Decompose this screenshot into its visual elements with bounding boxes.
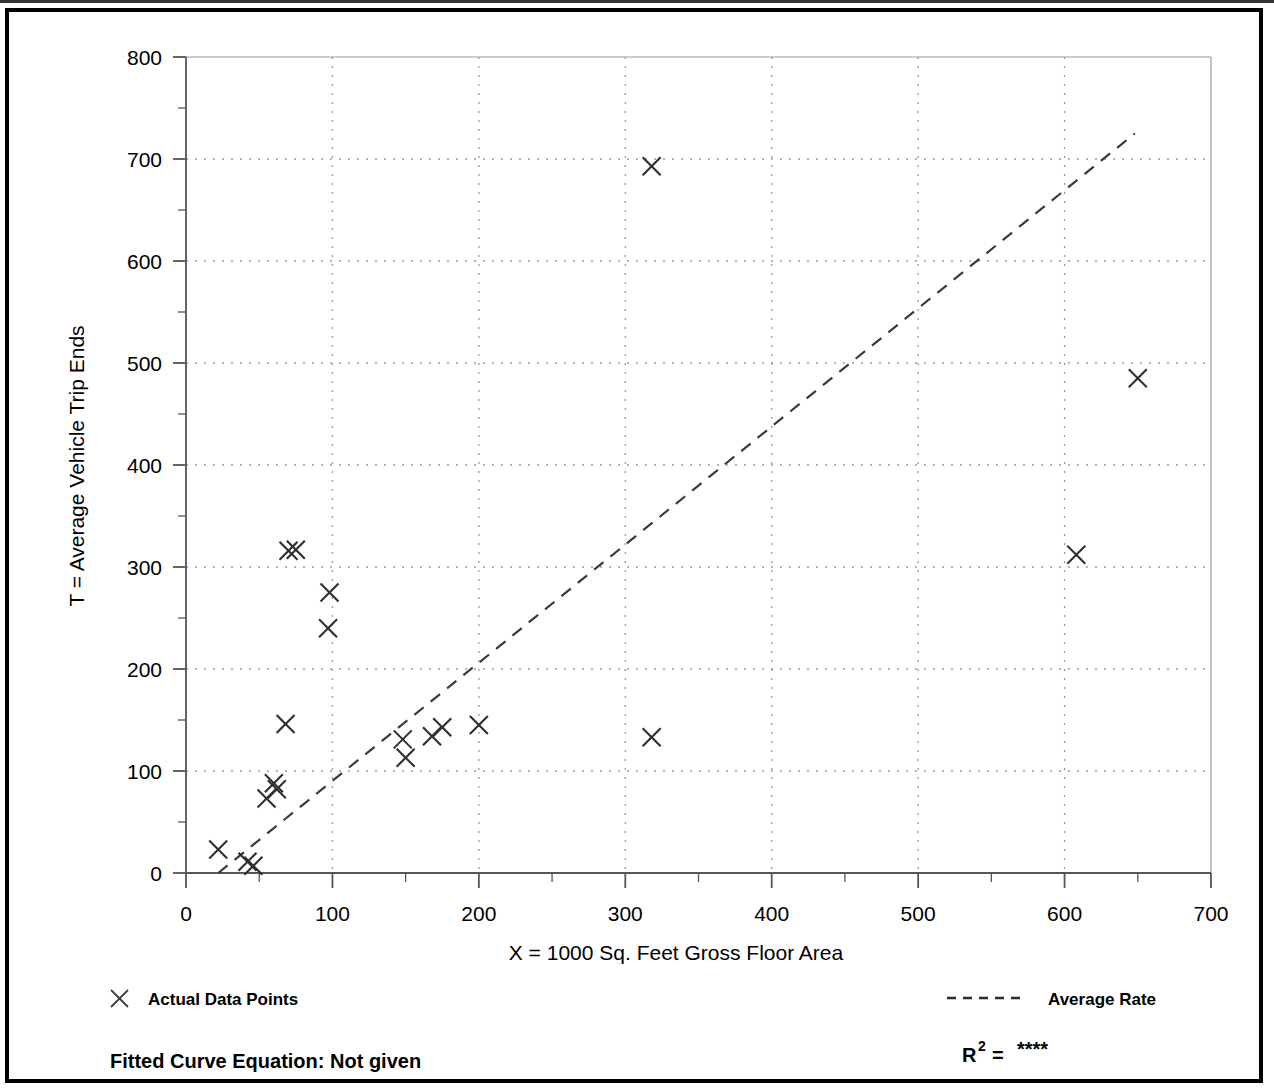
data-point-x-marker	[319, 619, 337, 637]
data-point-x-marker	[277, 715, 295, 733]
x-tick-label: 500	[901, 902, 936, 925]
y-tick-label: 300	[127, 556, 162, 579]
legend-marker-x-cross	[111, 990, 128, 1007]
axis-tick-labels: 0100200300400500600700800010020030040050…	[127, 46, 1229, 925]
x-tick-label: 0	[180, 902, 192, 925]
x-tick-label: 100	[315, 902, 350, 925]
data-point-x-marker	[433, 718, 451, 736]
axis-ticks	[173, 57, 1211, 888]
y-tick-label: 200	[127, 658, 162, 681]
x-axis-title: X = 1000 Sq. Feet Gross Floor Area	[509, 941, 844, 964]
r-squared-value: R 2 = ****	[962, 1038, 1048, 1066]
r-squared-stars: ****	[1017, 1038, 1048, 1060]
data-point-x-marker	[1067, 546, 1085, 564]
legend-label-average-rate: Average Rate	[1048, 990, 1156, 1009]
y-tick-label: 100	[127, 760, 162, 783]
figure-page: 0100200300400500600700800010020030040050…	[0, 0, 1274, 1092]
y-tick-label: 800	[127, 46, 162, 69]
y-tick-label: 400	[127, 454, 162, 477]
x-tick-label: 700	[1193, 902, 1228, 925]
data-point-x-marker	[643, 157, 661, 175]
r-squared-equals: =	[992, 1044, 1004, 1066]
data-point-x-marker	[643, 728, 661, 746]
scatter-chart: 0100200300400500600700800010020030040050…	[0, 0, 1274, 1092]
average-rate-trendline	[218, 134, 1135, 874]
grid-layer	[186, 57, 1211, 873]
data-point-x-marker	[470, 716, 488, 734]
y-tick-label: 0	[150, 862, 162, 885]
r-squared-prefix: R	[962, 1044, 977, 1066]
average-rate-line	[218, 134, 1135, 874]
data-point-x-marker	[397, 749, 415, 767]
legend-label-actual-data-points: Actual Data Points	[148, 990, 298, 1009]
x-tick-label: 200	[461, 902, 496, 925]
x-tick-label: 600	[1047, 902, 1082, 925]
data-point-x-marker	[239, 853, 257, 871]
y-tick-label: 700	[127, 148, 162, 171]
legend-entry-actual-data-points[interactable]: Actual Data Points	[111, 990, 298, 1009]
data-point-x-marker	[394, 730, 412, 748]
r-squared-exponent: 2	[978, 1038, 986, 1054]
y-axis-title: T = Average Vehicle Trip Ends	[65, 325, 88, 606]
y-tick-label: 500	[127, 352, 162, 375]
x-tick-label: 300	[608, 902, 643, 925]
data-point-x-marker	[268, 780, 286, 798]
data-point-x-marker	[321, 584, 339, 602]
data-point-x-marker	[209, 841, 227, 859]
fitted-curve-equation: Fitted Curve Equation: Not given	[110, 1050, 421, 1072]
legend-entry-average-rate[interactable]: Average Rate	[947, 990, 1156, 1009]
chart-canvas: 0100200300400500600700800010020030040050…	[0, 0, 1274, 1092]
data-point-x-marker	[265, 774, 283, 792]
x-tick-label: 400	[754, 902, 789, 925]
y-tick-label: 600	[127, 250, 162, 273]
data-point-x-marker	[1129, 369, 1147, 387]
